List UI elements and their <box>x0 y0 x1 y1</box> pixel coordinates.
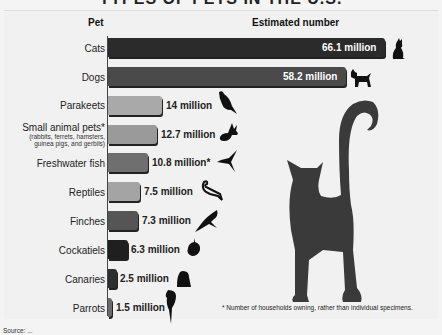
value-cats: 66.1 million <box>322 42 376 53</box>
value-fish: 10.8 million* <box>152 157 210 168</box>
bar-reptiles <box>108 182 140 201</box>
row-label-parrots: Parrots <box>73 303 105 314</box>
value-parakeets: 14 million <box>166 100 212 111</box>
cat-icon <box>389 38 407 60</box>
row-label-cockatiels: Cockatiels <box>59 245 105 256</box>
bar-parakeets <box>108 96 162 115</box>
fish-icon <box>217 150 237 172</box>
parakeet-icon <box>216 90 238 118</box>
bar-parrots <box>108 298 112 317</box>
number-column-header: Estimated number <box>252 17 339 28</box>
bar-canaries <box>108 269 117 288</box>
row-label-parakeets: Parakeets <box>60 100 105 111</box>
cockatiel-icon <box>186 238 202 258</box>
lizard-icon <box>200 180 224 202</box>
value-cockatiels: 6.3 million <box>131 244 180 255</box>
value-reptiles: 7.5 million <box>144 186 193 197</box>
small-animals-sublabel-1: (rabbits, ferrets, hamsters, <box>22 133 105 140</box>
value-parrots: 1.5 million <box>116 302 165 313</box>
large-cat-silhouette-icon <box>283 100 393 305</box>
value-dogs: 58.2 million <box>283 71 337 82</box>
row-label-dogs: Dogs <box>82 72 105 83</box>
value-small-animals: 12.7 million <box>161 129 215 140</box>
bar-cockatiels <box>108 240 128 259</box>
parrot-icon <box>164 290 178 324</box>
row-label-reptiles: Reptiles <box>69 187 105 198</box>
pet-column-header: Pet <box>88 17 104 28</box>
small-animals-label: Small animal pets* <box>22 122 105 133</box>
row-label-finches: Finches <box>70 216 105 227</box>
chart-title: TYPES OF PETS IN THE U.S. <box>0 0 442 8</box>
value-canaries: 2.5 million <box>120 273 169 284</box>
source-line: Source: ... <box>3 327 33 334</box>
small-animals-sublabel-2: guinea pigs, and gerbils) <box>22 140 105 147</box>
row-label-cats: Cats <box>84 43 105 54</box>
canary-icon <box>177 271 191 287</box>
row-label-small-animals: Small animal pets* (rabbits, ferrets, ha… <box>22 122 105 147</box>
dog-icon <box>349 69 373 89</box>
value-finches: 7.3 million <box>142 215 191 226</box>
bar-finches <box>108 211 138 230</box>
row-label-fish: Freshwater fish <box>37 158 105 169</box>
bar-small-animals <box>108 125 157 144</box>
row-label-canaries: Canaries <box>65 274 105 285</box>
rabbit-icon <box>218 123 240 143</box>
finch-icon <box>195 210 219 232</box>
footnote: * Number of households owning, rather th… <box>222 304 413 311</box>
bar-fish <box>108 153 148 172</box>
